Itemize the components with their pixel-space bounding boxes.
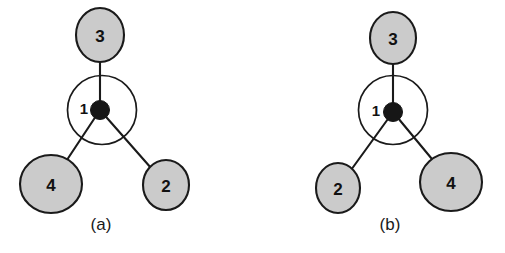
panel-a: 3 4 2 1 (a) [20,8,189,234]
panel-b-caption: (b) [380,215,401,234]
node-2-a: 2 [143,160,189,210]
node-3-a: 3 [76,8,124,62]
node-2-b: 2 [316,163,360,213]
panel-b: 3 2 4 1 (b) [316,12,482,234]
node-4-a: 4 [20,155,82,213]
node-4-b: 4 [420,153,482,211]
center-atom-dot-b [384,103,403,122]
node-4-a-label: 4 [46,176,56,195]
node-2-a-label: 2 [161,177,170,196]
panel-a-caption: (a) [91,215,112,234]
center-atom-dot-a [91,101,110,120]
node-3-b: 3 [370,12,416,64]
node-3-b-label: 3 [388,30,397,49]
stereochemistry-figure: 3 4 2 1 (a) [0,0,505,253]
node-4-b-label: 4 [446,174,456,193]
node-3-a-label: 3 [95,27,104,46]
center-atom-label-b: 1 [372,102,380,119]
node-2-b-label: 2 [333,180,342,199]
center-atom-label-a: 1 [80,100,88,117]
figure-canvas: 3 4 2 1 (a) [0,0,505,253]
